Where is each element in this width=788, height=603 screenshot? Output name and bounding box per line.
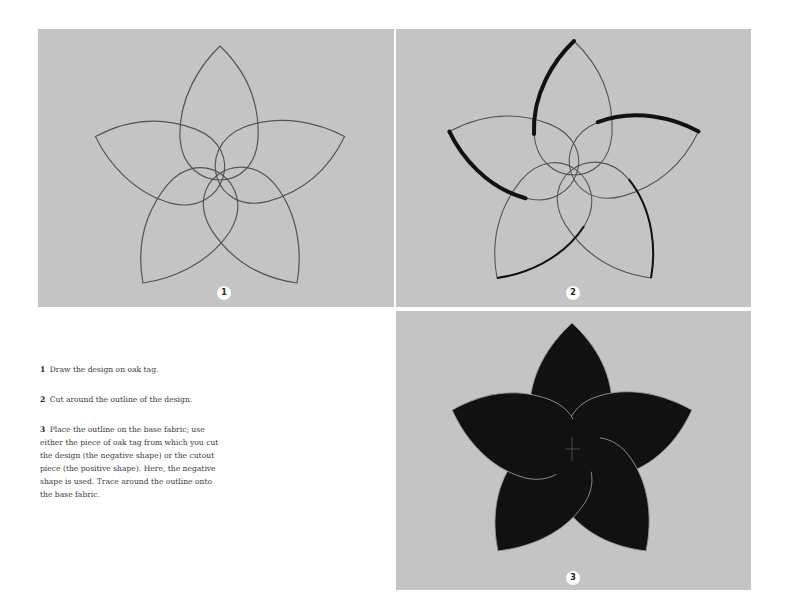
figure-badge: 3 [566, 571, 580, 585]
figure-1-drawn-design: 1 [38, 29, 394, 307]
step-2: 2 Cut around the outline of the design. [40, 393, 220, 406]
figure-badge: 1 [217, 286, 231, 300]
step-1: 1 Draw the design on oak tag. [40, 363, 220, 376]
step-3: 3 Place the outline on the base fabric; … [40, 423, 220, 501]
step-text: Draw the design on oak tag. [50, 365, 159, 374]
step-text: Cut around the outline of the design. [50, 395, 192, 404]
step-number: 1 [40, 365, 45, 374]
figure-2-cut-design: 2 [396, 29, 751, 307]
step-number: 2 [40, 395, 45, 404]
step-number: 3 [40, 425, 45, 434]
figure-badge: 2 [566, 286, 580, 300]
instruction-steps: 1 Draw the design on oak tag. 2 Cut arou… [40, 363, 220, 518]
flower-outline-drawing [38, 29, 394, 307]
flower-cut-outline [396, 29, 751, 307]
flower-fabric-silhouette [396, 311, 751, 590]
figure-3-traced-fabric: 3 [396, 311, 751, 590]
step-text: Place the outline on the base fabric; us… [40, 425, 218, 499]
